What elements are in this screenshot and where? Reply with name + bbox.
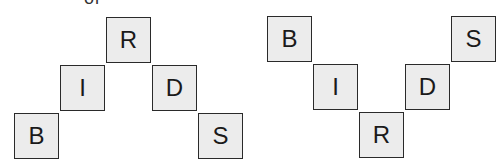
tile-r: R bbox=[106, 17, 151, 63]
tile-i: I bbox=[60, 65, 105, 111]
tile-s: S bbox=[451, 16, 496, 62]
tile-d: D bbox=[405, 64, 450, 110]
tile-d: D bbox=[152, 65, 197, 111]
caption-fragment: or bbox=[84, 0, 102, 9]
tile-i: I bbox=[313, 64, 358, 110]
tile-r: R bbox=[359, 112, 404, 158]
tile-s: S bbox=[198, 113, 243, 159]
tile-b: B bbox=[267, 16, 312, 62]
tile-b: B bbox=[14, 113, 59, 159]
